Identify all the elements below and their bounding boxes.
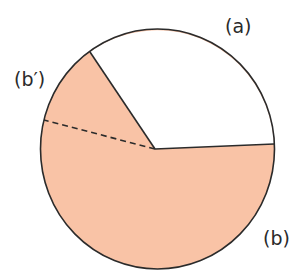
label-b-prime: (b′) [14, 70, 45, 89]
label-a: (a) [225, 17, 251, 36]
pie-diagram [0, 0, 308, 279]
label-b: (b) [263, 229, 290, 248]
